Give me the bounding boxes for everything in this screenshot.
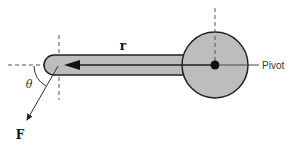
theta-label: θ: [26, 78, 33, 91]
torque-diagram: r θ F Pivot: [0, 0, 293, 146]
pivot-point: [211, 61, 220, 70]
pivot-label: Pivot: [262, 60, 284, 71]
r-label: r: [120, 39, 127, 53]
force-vector-arrow: [27, 66, 58, 120]
force-label: F: [16, 128, 25, 142]
